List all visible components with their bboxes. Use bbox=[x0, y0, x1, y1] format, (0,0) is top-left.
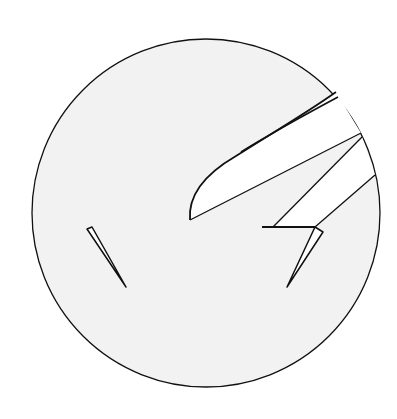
diagram-canvas bbox=[0, 0, 397, 419]
